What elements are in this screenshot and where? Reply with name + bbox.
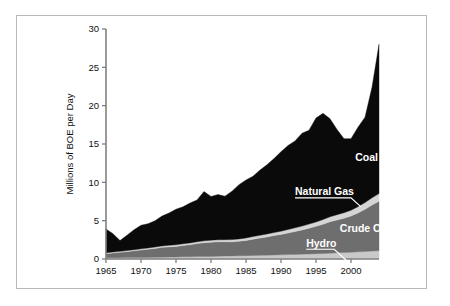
y-tick-label: 0 [94,253,99,264]
x-tick-label: 1995 [305,265,326,276]
x-tick-label: 1970 [130,265,151,276]
x-tick-label: 2000 [340,265,361,276]
chart-canvas: 0510152025301965197019751980198519901995… [0,0,450,306]
stacked-area-chart: 0510152025301965197019751980198519901995… [0,0,450,306]
x-tick-label: 1985 [235,265,256,276]
y-tick-label: 5 [94,215,99,226]
x-tick-label: 1990 [270,265,291,276]
series-annotation-coal: Coal [355,151,378,163]
x-tick-label: 1965 [95,265,116,276]
series-annotation-crude-oil: Crude Oil [340,222,387,234]
y-axis-title: Millions of BOE per Day [64,93,75,194]
y-tick-label: 10 [88,177,99,188]
y-tick-label: 25 [88,62,99,73]
x-tick-label: 1980 [200,265,221,276]
y-tick-label: 20 [88,100,99,111]
series-annotation-natural-gas: Natural Gas [295,185,354,197]
series-annotation-hydro: Hydro [306,237,336,249]
x-tick-label: 1975 [165,265,186,276]
y-tick-label: 30 [88,23,99,34]
y-tick-label: 15 [88,138,99,149]
